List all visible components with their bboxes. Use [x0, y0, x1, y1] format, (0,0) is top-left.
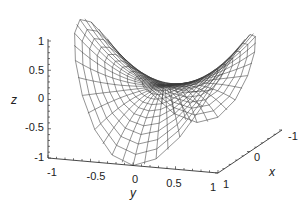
z-axis: 1 0.5 0 -0.5 -1 z [10, 35, 51, 163]
z-tick-neg0.5: -0.5 [25, 121, 44, 133]
x-tick-1: 1 [223, 178, 229, 190]
y-tick-neg0.5: -0.5 [87, 170, 106, 182]
z-tick-0: 0 [38, 92, 44, 104]
z-tick-0.5: 0.5 [29, 64, 44, 76]
y-tick-0.5: 0.5 [166, 177, 181, 189]
x-axis: 1 0 -1 x [215, 130, 298, 190]
y-axis: -1 -0.5 0 0.5 1 y [47, 155, 218, 200]
y-axis-label: y [129, 186, 137, 200]
y-tick-1: 1 [210, 181, 216, 193]
surface-plot: 1 0.5 0 -0.5 -1 z -1 -0.5 0 0.5 1 y 1 0 … [0, 0, 305, 211]
x-tick-neg1: -1 [288, 130, 298, 142]
y-tick-neg1: -1 [47, 166, 57, 178]
x-tick-0: 0 [254, 151, 260, 163]
z-axis-label: z [10, 93, 17, 107]
x-axis-label: x [268, 165, 276, 179]
z-tick-neg1: -1 [34, 151, 44, 163]
surface-mesh [74, 19, 256, 166]
z-tick-1: 1 [38, 35, 44, 47]
y-tick-0: 0 [132, 173, 138, 185]
